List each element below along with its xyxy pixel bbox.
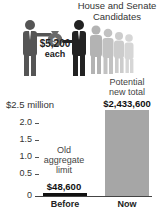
annotation-line: Old (42, 145, 86, 155)
y-tick-1.0: 1.0 (0, 151, 32, 161)
now-annotation: Potential new total (100, 77, 154, 97)
annotation-line: aggregate (42, 155, 86, 165)
contribution-amount: $5,200 (35, 38, 75, 49)
annotation-line: new total (100, 87, 154, 97)
per-candidate-contribution: $5,200 each (35, 38, 75, 60)
y-tick-mark (35, 174, 39, 175)
y-tick-0.5: 0.5 (0, 168, 32, 178)
y-tick-0: 0 (0, 190, 32, 200)
now-value-label: $2,433,600 (96, 98, 158, 109)
x-axis-baseline (35, 196, 152, 197)
annotation-line: Potential (100, 77, 154, 87)
candidate-queue-icon (90, 26, 134, 75)
annotation-line: limit (42, 165, 86, 175)
y-tick-mark (35, 157, 39, 158)
candidates-illustration: $ (0, 18, 162, 80)
bar-before (43, 193, 87, 196)
before-annotation: Old aggregate limit (42, 145, 86, 175)
y-axis-top-label: $2.5 million (6, 99, 54, 110)
title-line-1: House and Senate (74, 0, 160, 11)
y-tick-1.5: 1.5 (0, 134, 32, 144)
before-value-label: $48,600 (40, 181, 88, 192)
y-tick-mark (35, 123, 39, 124)
bar-now (105, 110, 149, 196)
x-label-before: Before (42, 199, 88, 209)
contribution-unit: each (35, 49, 75, 60)
y-tick-2.0: 2.0 (0, 117, 32, 127)
y-tick-mark (35, 140, 39, 141)
x-label-now: Now (105, 199, 149, 209)
